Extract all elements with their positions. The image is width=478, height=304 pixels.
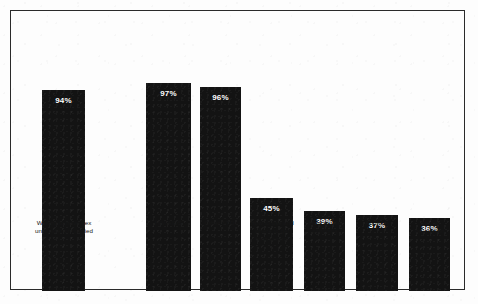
plot-area: 94% Waiting to have sex until older or m… (11, 11, 466, 291)
bar-birth-control: 45% (250, 198, 293, 291)
bar-value-hiv-aids: 97% (146, 89, 191, 98)
bar-value-waiting-to-have-sex: 94% (42, 96, 85, 105)
bar-label-sexual-orientation: Sexual orientation (391, 219, 469, 235)
bar-group-hiv-aids: 97% (146, 83, 191, 291)
bar-hiv-aids: 97% (146, 83, 191, 291)
bar-group-other-stds: 96% (200, 87, 241, 291)
bar-value-other-stds: 96% (200, 93, 241, 102)
bar-group-birth-control: 45% (250, 198, 293, 291)
bar-other-stds: 96% (200, 87, 241, 291)
bar-value-birth-control: 45% (250, 204, 293, 213)
chart-frame-border: 94% Waiting to have sex until older or m… (10, 10, 465, 290)
bar-waiting-to-have-sex: 94% (42, 90, 85, 291)
bar-chart-figure: 94% Waiting to have sex until older or m… (0, 0, 478, 304)
bar-label-waiting-to-have-sex: Waiting to have sex until older or marri… (19, 219, 109, 235)
bar-group-waiting-to-have-sex: 94% (42, 90, 85, 291)
